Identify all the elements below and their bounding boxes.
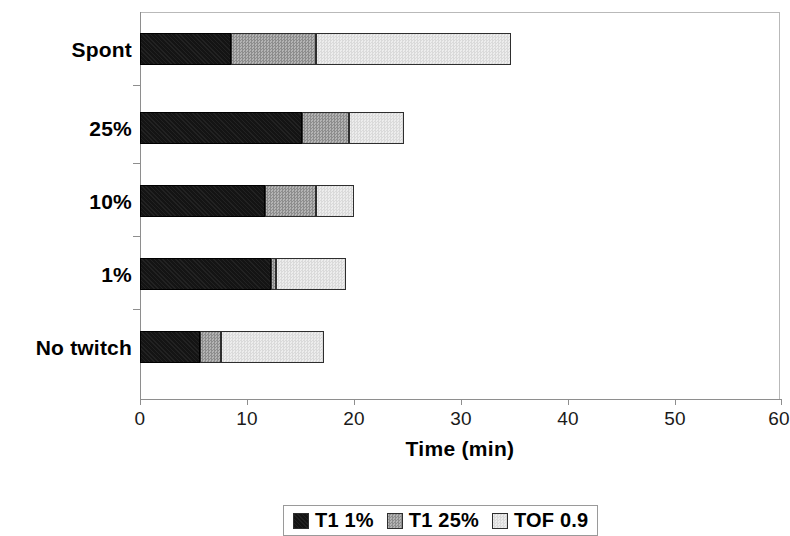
x-tick-40	[568, 399, 569, 405]
category-label-spont: Spont	[72, 38, 132, 62]
bar-segment	[302, 112, 349, 144]
category-label-10: 10%	[89, 190, 132, 214]
x-tick-label-50: 50	[664, 408, 686, 430]
y-tick-2	[133, 163, 140, 164]
bar-segment	[200, 331, 221, 363]
bar-row	[140, 112, 781, 144]
bar-segment	[140, 185, 265, 217]
bar-row	[140, 258, 781, 290]
bar-segment	[231, 33, 316, 65]
legend-label-t1-1: T1 1%	[315, 509, 374, 532]
bar-row	[140, 185, 781, 217]
bar-segment	[316, 33, 510, 65]
bar-segment	[140, 258, 271, 290]
x-tick-label-40: 40	[557, 408, 579, 430]
bar-segment	[221, 331, 324, 363]
x-tick-50	[675, 399, 676, 405]
bar-row	[140, 331, 781, 363]
bar-segment	[265, 185, 316, 217]
category-label-1: 1%	[101, 263, 132, 287]
legend-swatch-icon-t1-1	[293, 513, 309, 529]
legend-item-t1-25[interactable]: T1 25%	[387, 509, 479, 532]
bar-segment	[316, 185, 353, 217]
bar-segment	[140, 112, 302, 144]
bar-segment	[349, 112, 403, 144]
legend-swatch-icon-t1-25	[387, 513, 403, 529]
chart-legend: T1 1% T1 25% TOF 0.9	[283, 505, 598, 536]
legend-swatch-icon-tof-09	[492, 513, 508, 529]
x-tick-60	[781, 399, 782, 405]
y-tick-4	[133, 309, 140, 310]
category-label-no-twitch: No twitch	[36, 336, 132, 360]
legend-item-tof-09[interactable]: TOF 0.9	[492, 509, 588, 532]
x-tick-label-10: 10	[236, 408, 258, 430]
x-axis-title: Time (min)	[140, 437, 780, 461]
legend-label-t1-25: T1 25%	[409, 509, 479, 532]
bar-segment	[276, 258, 347, 290]
bar-segment	[140, 33, 231, 65]
x-tick-0	[140, 399, 141, 405]
x-tick-label-20: 20	[343, 408, 365, 430]
x-tick-label-30: 30	[450, 408, 472, 430]
y-tick-1	[133, 85, 140, 86]
x-tick-10	[247, 399, 248, 405]
x-tick-label-60: 60	[768, 408, 790, 430]
bar-segment	[140, 331, 200, 363]
legend-item-t1-1[interactable]: T1 1%	[293, 509, 374, 532]
bar-row	[140, 33, 781, 65]
legend-label-tof-09: TOF 0.9	[514, 509, 588, 532]
y-tick-3	[133, 236, 140, 237]
x-tick-30	[461, 399, 462, 405]
x-tick-label-0: 0	[135, 408, 146, 430]
x-tick-20	[354, 399, 355, 405]
category-label-25: 25%	[89, 117, 132, 141]
